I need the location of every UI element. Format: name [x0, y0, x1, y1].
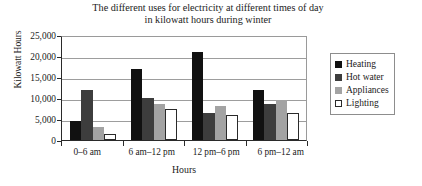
legend-item-label: Appliances [346, 85, 389, 96]
bar[interactable] [70, 121, 82, 140]
x-axis-tick-label: 6 pm–12 am [249, 147, 314, 158]
y-axis-tick-labels: 25,00020,00015,00010,0005,0000 [2, 31, 56, 146]
y-axis-tick-label: 10,000 [2, 94, 56, 104]
legend-item[interactable]: Hot water [335, 71, 389, 84]
plot-area [61, 36, 307, 141]
bar-group [184, 37, 245, 140]
bar-chart: The different uses for electricity at di… [0, 0, 422, 186]
x-axis-ticks [61, 141, 307, 146]
bars-layer [62, 37, 306, 140]
bar[interactable] [142, 98, 154, 140]
bar[interactable] [276, 100, 288, 140]
legend-item-label: Lighting [346, 98, 379, 109]
bar[interactable] [203, 113, 215, 140]
bar[interactable] [131, 69, 143, 140]
legend-swatch-icon [335, 100, 342, 107]
x-axis-tick [184, 141, 185, 146]
y-axis-tick-label: 15,000 [2, 73, 56, 83]
legend-item[interactable]: Appliances [335, 84, 389, 97]
bar-group [62, 37, 123, 140]
x-axis-tick [307, 141, 308, 146]
chart-title-line-2: in kilowatt hours during winter [48, 14, 368, 26]
bar[interactable] [93, 127, 105, 140]
x-axis-tick-label: 6 am–12 pm [120, 147, 185, 158]
x-axis-tick-labels: 0–6 am6 am–12 pm12 pm–6 pm6 pm–12 am [55, 147, 313, 158]
y-axis-tick-label: 5,000 [2, 115, 56, 125]
bar[interactable] [264, 104, 276, 140]
legend-item-label: Heating [346, 59, 376, 70]
x-axis-tick [61, 141, 62, 146]
legend-swatch-icon [335, 74, 342, 81]
x-axis-tick-label: 12 pm–6 pm [184, 147, 249, 158]
x-axis-tick [123, 141, 124, 146]
bar[interactable] [215, 106, 227, 140]
bar-group [245, 37, 306, 140]
legend-item[interactable]: Heating [335, 58, 389, 71]
bar[interactable] [253, 90, 265, 140]
bar[interactable] [81, 90, 93, 140]
x-axis-tick-label: 0–6 am [55, 147, 120, 158]
bar[interactable] [154, 104, 166, 140]
legend-swatch-icon [335, 87, 342, 94]
chart-title-line-1: The different uses for electricity at di… [48, 2, 368, 14]
y-axis-tick-label: 0 [2, 136, 56, 146]
x-axis-title: Hours [61, 164, 307, 175]
y-axis-tick-label: 20,000 [2, 52, 56, 62]
bar[interactable] [165, 109, 177, 141]
bar-group [123, 37, 184, 140]
legend-swatch-icon [335, 61, 342, 68]
x-axis-tick [246, 141, 247, 146]
bar[interactable] [192, 52, 204, 140]
bar[interactable] [226, 115, 238, 140]
legend-item-label: Hot water [346, 72, 384, 83]
legend-item[interactable]: Lighting [335, 97, 389, 110]
bar[interactable] [287, 113, 299, 140]
chart-legend: HeatingHot waterAppliancesLighting [330, 53, 395, 115]
bar[interactable] [104, 134, 116, 140]
chart-title: The different uses for electricity at di… [48, 2, 368, 26]
y-axis-tick-label: 25,000 [2, 31, 56, 41]
